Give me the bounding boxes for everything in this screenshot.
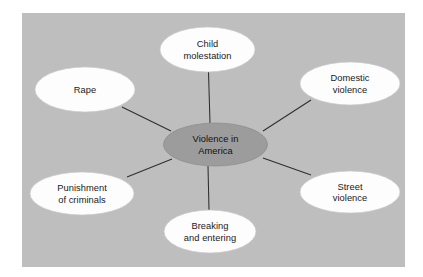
node-child-molestation[interactable]: Childmolestation <box>160 27 255 72</box>
concept-map-graphic: ChildmolestationDomesticviolenceStreetvi… <box>0 0 423 277</box>
street-violence-label: Streetviolence <box>333 182 368 203</box>
node-punishment-of-criminals[interactable]: Punishmentof criminals <box>30 172 134 215</box>
center-node-group: Violence inAmerica <box>164 123 268 166</box>
child-molestation-ellipse[interactable] <box>160 27 255 72</box>
center-node-ellipse[interactable] <box>164 123 268 166</box>
domestic-violence-ellipse[interactable] <box>300 62 400 105</box>
domestic-violence-label-line: violence <box>333 85 368 95</box>
street-violence-ellipse[interactable] <box>300 171 400 213</box>
connector-to-domestic-violence <box>263 100 311 131</box>
connector-to-punishment-of-criminals <box>127 159 172 177</box>
rape-label: Rape <box>74 85 96 95</box>
diagram-canvas: ChildmolestationDomesticviolenceStreetvi… <box>0 0 423 277</box>
connector-to-child-molestation <box>209 72 211 123</box>
connector-to-breaking-and-entering <box>208 166 209 210</box>
center-node-label: Violence inAmerica <box>193 134 239 155</box>
breaking-and-entering-label-line: and entering <box>184 233 236 243</box>
domestic-violence-label: Domesticviolence <box>330 73 369 94</box>
breaking-and-entering-label-line: Breaking <box>191 221 228 231</box>
breaking-and-entering-ellipse[interactable] <box>164 210 256 253</box>
street-violence-label-line: violence <box>333 193 368 203</box>
domestic-violence-label-line: Domestic <box>330 73 369 83</box>
node-domestic-violence[interactable]: Domesticviolence <box>300 62 400 105</box>
street-violence-label-line: Street <box>337 182 362 192</box>
punishment-of-criminals-label: Punishmentof criminals <box>57 183 107 204</box>
child-molestation-label-line: Child <box>197 39 218 49</box>
node-street-violence[interactable]: Streetviolence <box>300 171 400 213</box>
child-molestation-label-line: molestation <box>183 51 231 61</box>
center-node-label-line: Violence in <box>193 134 239 144</box>
connector-to-street-violence <box>263 158 311 175</box>
node-center-violence-in-america[interactable]: Violence inAmerica <box>164 123 268 166</box>
breaking-and-entering-label: Breakingand entering <box>184 221 236 242</box>
connector-to-rape <box>122 107 171 131</box>
node-breaking-and-entering[interactable]: Breakingand entering <box>164 210 256 253</box>
rape-label-line: Rape <box>74 85 96 95</box>
punishment-of-criminals-label-line: of criminals <box>58 195 106 205</box>
punishment-of-criminals-label-line: Punishment <box>57 183 107 193</box>
node-rape[interactable]: Rape <box>35 67 135 112</box>
punishment-of-criminals-ellipse[interactable] <box>30 172 134 215</box>
center-node-label-line: America <box>198 146 233 156</box>
